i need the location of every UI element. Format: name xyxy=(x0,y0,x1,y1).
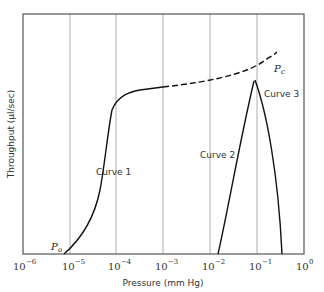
svg-text:−5: −5 xyxy=(75,258,85,266)
svg-text:10: 10 xyxy=(13,261,26,272)
svg-text:−1: −1 xyxy=(262,258,272,266)
x-tick-1e-1: 10 −1 xyxy=(249,258,272,272)
x-axis-label: Pressure (mm Hg) xyxy=(122,278,203,288)
x-tick-1e-4: 10 −4 xyxy=(108,258,132,272)
curve-3-label: Curve 3 xyxy=(264,89,299,99)
throughput-pressure-chart: P o P c Curve 1 Curve 2 Curve 3 10 −6 10… xyxy=(0,0,324,292)
curve-2-label: Curve 2 xyxy=(200,150,235,160)
vertical-gridlines xyxy=(70,14,257,254)
svg-text:P: P xyxy=(50,241,58,252)
pc-label: P c xyxy=(273,63,285,76)
x-tick-1e-5: 10 −5 xyxy=(62,258,85,272)
curve-3-line xyxy=(255,80,282,254)
x-tick-1e-2: 10 −2 xyxy=(202,258,225,272)
x-tick-1e0: 10 0 xyxy=(296,258,313,272)
plot-frame xyxy=(23,14,304,254)
x-tick-1e-6: 10 −6 xyxy=(13,258,37,272)
svg-text:10: 10 xyxy=(108,261,121,272)
svg-text:−2: −2 xyxy=(215,258,225,266)
p0-label: P o xyxy=(50,241,62,254)
curve-1-label: Curve 1 xyxy=(96,167,131,177)
svg-text:10: 10 xyxy=(249,261,262,272)
svg-text:10: 10 xyxy=(155,261,168,272)
svg-text:−4: −4 xyxy=(121,258,132,266)
x-tick-1e-3: 10 −3 xyxy=(155,258,178,272)
curve-2-line xyxy=(218,81,254,254)
svg-text:0: 0 xyxy=(309,258,313,266)
svg-text:o: o xyxy=(58,246,62,254)
x-axis-ticks: 10 −6 10 −5 10 −4 10 −3 10 −2 10 −1 10 0 xyxy=(13,258,313,272)
svg-text:10: 10 xyxy=(202,261,215,272)
svg-text:−6: −6 xyxy=(26,258,37,266)
svg-text:c: c xyxy=(281,68,285,76)
y-axis-label: Throughput (µl/sec) xyxy=(6,90,16,180)
curve-1-dashed-line xyxy=(163,52,277,87)
svg-text:P: P xyxy=(273,63,281,74)
svg-text:10: 10 xyxy=(296,261,309,272)
svg-text:−3: −3 xyxy=(168,258,178,266)
svg-text:10: 10 xyxy=(62,261,75,272)
